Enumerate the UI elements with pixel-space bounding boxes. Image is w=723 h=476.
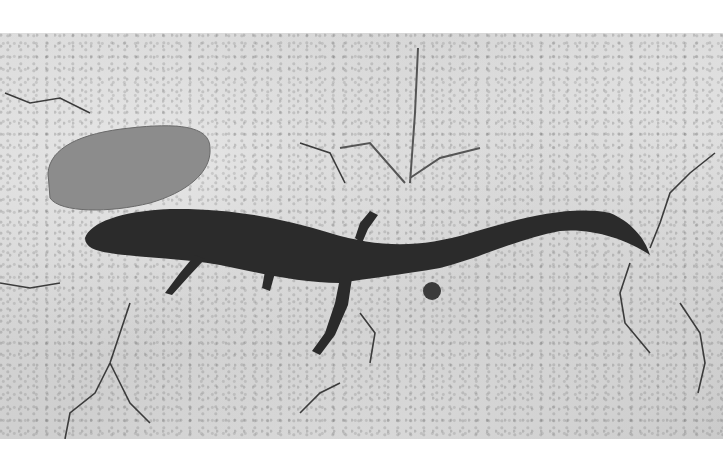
photograph [0,33,723,439]
rock [48,126,210,210]
grass [340,48,480,183]
pebble [423,282,441,300]
scene-illustration [0,33,723,439]
lizard [85,209,650,355]
